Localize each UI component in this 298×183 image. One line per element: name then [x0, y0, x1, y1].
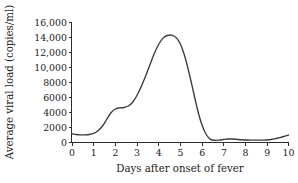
- y-axis-title: Average viral load (copies/ml): [4, 5, 15, 160]
- y-tick-label-2000: 2000: [43, 122, 67, 133]
- x-tick-label-9: 9: [264, 147, 270, 158]
- y-tick-label-0: 0: [61, 137, 67, 148]
- y-tick-label-14000: 14,000: [34, 32, 67, 43]
- y-tick-label-10000: 10,000: [34, 62, 67, 73]
- x-tick-label-6: 6: [199, 147, 205, 158]
- x-tick-label-2: 2: [112, 147, 118, 158]
- x-tick-label-8: 8: [243, 147, 249, 158]
- y-tick-label-6000: 6000: [43, 92, 67, 103]
- x-tick-label-1: 1: [91, 147, 97, 158]
- x-axis-title: Days after onset of fever: [116, 163, 244, 174]
- y-tick-label-8000: 8000: [43, 77, 67, 88]
- x-tick-label-0: 0: [69, 147, 75, 158]
- x-tick-label-7: 7: [221, 147, 227, 158]
- x-tick-label-5: 5: [178, 147, 184, 158]
- chart-plot-area: Average viral load (copies/ml) 16,000 14…: [0, 0, 298, 183]
- viral-load-chart: Average viral load (copies/ml) 16,000 14…: [0, 0, 298, 183]
- x-tick-label-10: 10: [283, 147, 295, 158]
- x-tick-label-3: 3: [134, 147, 140, 158]
- y-tick-label-12000: 12,000: [34, 47, 67, 58]
- y-tick-label-4000: 4000: [43, 107, 67, 118]
- x-tick-label-4: 4: [156, 147, 162, 158]
- y-tick-label-16000: 16,000: [34, 17, 67, 28]
